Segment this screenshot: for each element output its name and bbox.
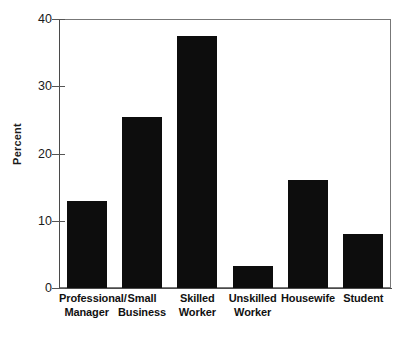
x-axis-label-line1: Skilled bbox=[180, 292, 215, 304]
bar bbox=[122, 117, 162, 288]
x-axis-label-line1: Housewife bbox=[281, 292, 335, 304]
y-axis-tick-labels: 010203040 bbox=[22, 0, 52, 339]
bar-chart-figure: Percent 010203040 Professional/ManagerSm… bbox=[0, 0, 405, 339]
x-axis-category-labels: Professional/ManagerSmallBusinessSkilled… bbox=[59, 292, 391, 338]
x-axis-label-line1: Small bbox=[128, 292, 157, 304]
bar bbox=[177, 36, 217, 288]
x-axis-label: UnskilledWorker bbox=[225, 292, 280, 319]
bar bbox=[343, 234, 383, 288]
bar bbox=[233, 266, 273, 288]
x-axis-line bbox=[59, 288, 392, 289]
y-tick-label-10: 10 bbox=[26, 214, 52, 228]
y-tick-mark-40 bbox=[52, 19, 65, 20]
x-axis-label: Student bbox=[336, 292, 391, 306]
y-tick-label-0: 0 bbox=[26, 281, 52, 295]
x-axis-label-line2: Business bbox=[114, 306, 169, 320]
x-axis-label: Housewife bbox=[280, 292, 335, 306]
x-axis-label-line2: Worker bbox=[170, 306, 225, 320]
y-tick-label-40: 40 bbox=[26, 12, 52, 26]
x-axis-label: SmallBusiness bbox=[114, 292, 169, 319]
y-tick-mark-10 bbox=[52, 221, 65, 222]
y-tick-mark-20 bbox=[52, 154, 65, 155]
y-tick-label-30: 30 bbox=[26, 79, 52, 93]
x-axis-label: SkilledWorker bbox=[170, 292, 225, 319]
bar-series bbox=[59, 19, 391, 288]
x-axis-label-line1: Unskilled bbox=[229, 292, 277, 304]
bar bbox=[288, 180, 328, 288]
bar bbox=[67, 201, 107, 288]
x-axis-label-line2: Manager bbox=[59, 306, 114, 320]
x-axis-label: Professional/Manager bbox=[59, 292, 114, 319]
x-axis-label-line2: Worker bbox=[225, 306, 280, 320]
y-tick-mark-30 bbox=[52, 86, 65, 87]
y-tick-label-20: 20 bbox=[26, 147, 52, 161]
x-axis-label-line1: Student bbox=[343, 292, 383, 304]
y-tick-mark-0 bbox=[52, 288, 65, 289]
